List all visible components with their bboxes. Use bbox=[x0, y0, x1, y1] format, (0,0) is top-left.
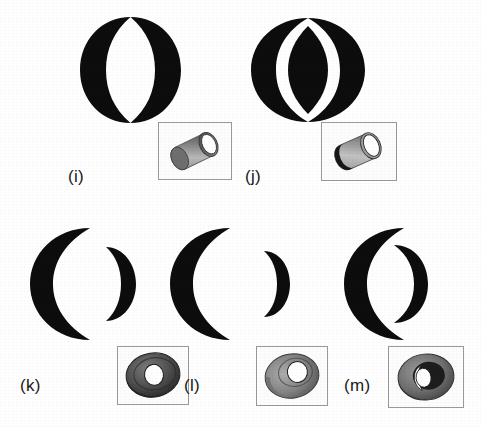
large-crescent-l bbox=[170, 228, 230, 340]
small-crescent-k bbox=[106, 247, 136, 321]
crescent-right-i bbox=[131, 17, 182, 123]
large-crescent-k bbox=[30, 228, 90, 340]
silhouette-m bbox=[332, 223, 464, 345]
figure-label-m: (m) bbox=[344, 377, 370, 394]
small-crescent-l bbox=[264, 251, 290, 317]
figure-label-l: (l) bbox=[184, 377, 200, 394]
figure-panel-m: (m) bbox=[330, 213, 481, 427]
figure-label-j: (j) bbox=[245, 168, 261, 185]
small-crescent-m bbox=[394, 245, 428, 323]
figure-panel-i: (i) bbox=[0, 0, 240, 213]
figure-label-i: (i) bbox=[68, 168, 84, 185]
figure-sheet: (i) bbox=[0, 0, 481, 427]
silhouette-k bbox=[22, 223, 152, 345]
silhouette-i bbox=[58, 14, 203, 126]
figure-label-k: (k) bbox=[20, 377, 41, 394]
torus-inset-l bbox=[256, 346, 328, 406]
figure-panel-l: (l) bbox=[160, 213, 335, 427]
central-lens-j bbox=[288, 26, 328, 114]
torus-inset-m bbox=[388, 346, 464, 408]
silhouette-l bbox=[160, 223, 305, 345]
tube-inset-j bbox=[321, 122, 397, 181]
figure-panel-k: (k) bbox=[0, 213, 170, 427]
large-crescent-m bbox=[344, 228, 404, 340]
crescent-left-i bbox=[80, 17, 131, 123]
figure-panel-j: (j) bbox=[210, 0, 481, 213]
silhouette-j bbox=[220, 14, 396, 126]
